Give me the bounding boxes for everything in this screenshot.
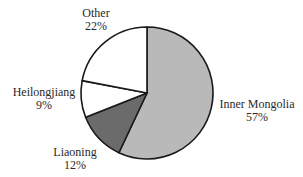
pie-slices: [81, 27, 213, 159]
label-other: Other 22%: [76, 7, 116, 33]
label-inner-mongolia: Inner Mongolia 57%: [214, 98, 300, 124]
pie-chart: Other 22% Heilongjiang 9% Inner Mongolia…: [0, 0, 303, 177]
slice-label-percent: 12%: [50, 159, 100, 172]
pie-slice-other: [82, 27, 147, 93]
label-liaoning: Liaoning 12%: [50, 146, 100, 172]
slice-label-percent: 9%: [8, 99, 80, 112]
slice-label-percent: 57%: [214, 111, 300, 124]
label-heilongjiang: Heilongjiang 9%: [8, 86, 80, 112]
slice-label-percent: 22%: [76, 20, 116, 33]
